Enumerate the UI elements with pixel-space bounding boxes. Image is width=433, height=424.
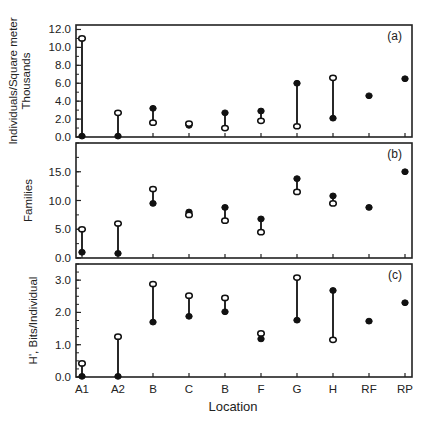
y-tick-label: 1.0: [55, 339, 71, 351]
x-tick-label: A2: [111, 383, 125, 395]
filled-circle-marker: [258, 108, 264, 114]
filled-circle-marker: [294, 80, 300, 86]
filled-circle-marker: [79, 373, 85, 379]
filled-circle-marker: [258, 336, 264, 342]
open-circle-marker: [150, 120, 157, 125]
filled-circle-marker: [294, 317, 300, 323]
open-circle-marker: [222, 218, 229, 223]
open-circle-marker: [150, 281, 157, 286]
y-tick-label: 0.0: [55, 371, 71, 383]
plot-frame: [76, 143, 412, 258]
panel-a: 0.02.04.06.08.010.012.0(a)Individuals/Sq…: [7, 17, 412, 144]
x-axis-label: Location: [208, 399, 257, 414]
x-tick-label: B: [149, 383, 157, 395]
open-circle-marker: [79, 36, 86, 41]
y-tick-label: 3.0: [55, 274, 71, 286]
open-circle-marker: [330, 337, 337, 342]
open-circle-marker: [294, 124, 301, 129]
panel-label: (b): [387, 147, 402, 161]
open-circle-marker: [115, 110, 122, 115]
open-circle-marker: [186, 293, 193, 298]
x-tick-label: H: [329, 383, 337, 395]
filled-circle-marker: [150, 105, 156, 111]
filled-circle-marker: [222, 205, 228, 211]
filled-circle-marker: [402, 76, 408, 82]
filled-circle-marker: [79, 133, 85, 139]
open-circle-marker: [330, 75, 337, 80]
y-tick-label: 12.0: [49, 23, 71, 35]
filled-circle-marker: [115, 133, 121, 139]
x-tick-label: C: [185, 383, 193, 395]
filled-circle-marker: [330, 288, 336, 294]
open-circle-marker: [258, 230, 265, 235]
y-tick-label: 2.0: [55, 113, 71, 125]
filled-circle-marker: [330, 193, 336, 199]
open-circle-marker: [186, 121, 193, 126]
figure: 0.02.04.06.08.010.012.0(a)Individuals/Sq…: [0, 0, 433, 424]
filled-circle-marker: [366, 318, 372, 324]
panel-b: 0.05.010.015.0(b)Families: [22, 143, 412, 264]
panel-c: 0.01.02.03.0(c)H', Bits/Individual: [27, 264, 412, 383]
filled-circle-marker: [402, 169, 408, 175]
y-tick-label: 5.0: [55, 223, 71, 235]
y-tick-label: 0.0: [55, 131, 71, 143]
x-tick-label: F: [257, 383, 264, 395]
open-circle-marker: [294, 275, 301, 280]
open-circle-marker: [294, 189, 301, 194]
open-circle-marker: [222, 295, 229, 300]
plot-frame: [76, 264, 412, 377]
y-tick-label: 6.0: [55, 77, 71, 89]
open-circle-marker: [150, 186, 157, 191]
panel-label: (a): [387, 29, 402, 43]
open-circle-marker: [115, 221, 122, 226]
filled-circle-marker: [366, 93, 372, 99]
open-circle-marker: [115, 334, 122, 339]
y-tick-label: 10.0: [49, 41, 71, 53]
y-tick-label: 4.0: [55, 95, 71, 107]
filled-circle-marker: [150, 200, 156, 206]
filled-circle-marker: [115, 251, 121, 257]
y-tick-label: 8.0: [55, 59, 71, 71]
x-tick-label: A1: [75, 383, 89, 395]
y-tick-label: 0.0: [55, 252, 71, 264]
y-tick-label: 15.0: [49, 166, 71, 178]
open-circle-marker: [222, 125, 229, 130]
plot-frame: [76, 25, 412, 137]
open-circle-marker: [186, 212, 193, 217]
y-axis-label: Individuals/Square meter: [7, 17, 19, 144]
open-circle-marker: [79, 227, 86, 232]
filled-circle-marker: [150, 319, 156, 325]
panel-label: (c): [388, 268, 402, 282]
filled-circle-marker: [115, 373, 121, 379]
filled-circle-marker: [186, 313, 192, 319]
x-tick-label: RF: [361, 383, 376, 395]
y-axis-label: H', Bits/Individual: [27, 277, 39, 365]
filled-circle-marker: [222, 110, 228, 116]
open-circle-marker: [258, 118, 265, 123]
x-tick-label: G: [293, 383, 302, 395]
y-axis-label-units: Thousands: [20, 52, 32, 109]
y-tick-label: 2.0: [55, 306, 71, 318]
x-tick-label: B: [221, 383, 229, 395]
open-circle-marker: [258, 331, 265, 336]
filled-circle-marker: [222, 309, 228, 315]
y-tick-label: 10.0: [49, 195, 71, 207]
filled-circle-marker: [366, 205, 372, 211]
filled-circle-marker: [258, 216, 264, 222]
open-circle-marker: [79, 361, 86, 366]
x-tick-label: RP: [397, 383, 413, 395]
filled-circle-marker: [402, 300, 408, 306]
open-circle-marker: [330, 201, 337, 206]
filled-circle-marker: [330, 115, 336, 121]
y-axis-label: Families: [22, 179, 34, 222]
filled-circle-marker: [294, 176, 300, 182]
filled-circle-marker: [79, 249, 85, 255]
